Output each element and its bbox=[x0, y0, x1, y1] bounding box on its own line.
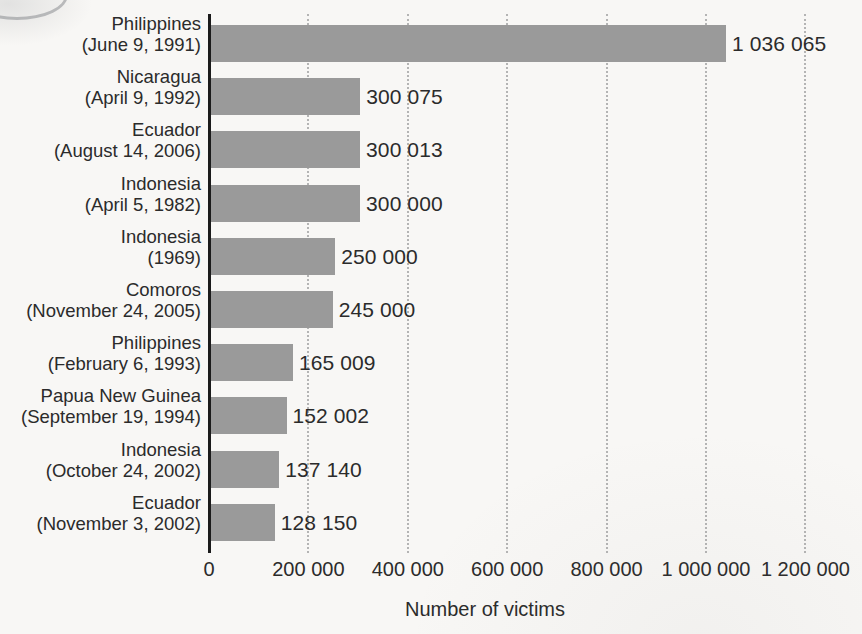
category-label: Papua New Guinea(September 19, 1994) bbox=[0, 385, 201, 427]
value-tick-label: 400 000 bbox=[372, 558, 444, 581]
bar-value-label: 128 150 bbox=[281, 504, 358, 541]
category-country: Indonesia bbox=[0, 439, 201, 460]
value-axis-title: Number of victims bbox=[0, 598, 862, 621]
bar[interactable] bbox=[211, 291, 333, 328]
category-date: (November 24, 2005) bbox=[0, 300, 201, 321]
bar[interactable] bbox=[211, 344, 293, 381]
category-date: (April 9, 1992) bbox=[0, 87, 201, 108]
category-country: Nicaragua bbox=[0, 66, 201, 87]
gridline bbox=[606, 14, 608, 553]
bar-value-label: 250 000 bbox=[341, 238, 418, 275]
bar[interactable] bbox=[211, 131, 360, 168]
bar[interactable] bbox=[211, 25, 726, 62]
category-date: (August 14, 2006) bbox=[0, 140, 201, 161]
category-label: Comoros(November 24, 2005) bbox=[0, 279, 201, 321]
value-tick-label: 600 000 bbox=[471, 558, 543, 581]
gridline bbox=[705, 14, 707, 553]
bar[interactable] bbox=[211, 78, 360, 115]
bar-value-label: 300 075 bbox=[366, 78, 443, 115]
bar[interactable] bbox=[211, 185, 360, 222]
category-label: Ecuador(November 3, 2002) bbox=[0, 492, 201, 534]
category-label: Ecuador(August 14, 2006) bbox=[0, 119, 201, 161]
value-tick-label: 200 000 bbox=[272, 558, 344, 581]
bar-value-label: 300 013 bbox=[366, 131, 443, 168]
bar[interactable] bbox=[211, 238, 335, 275]
category-country: Papua New Guinea bbox=[0, 385, 201, 406]
bar-value-label: 245 000 bbox=[339, 291, 416, 328]
category-date: (October 24, 2002) bbox=[0, 460, 201, 481]
category-date: (June 9, 1991) bbox=[0, 34, 201, 55]
category-label: Philippines(February 6, 1993) bbox=[0, 332, 201, 374]
category-country: Ecuador bbox=[0, 492, 201, 513]
bar[interactable] bbox=[211, 451, 279, 488]
category-label: Indonesia(April 5, 1982) bbox=[0, 173, 201, 215]
bar-value-label: 152 002 bbox=[293, 397, 370, 434]
category-country: Indonesia bbox=[0, 226, 201, 247]
category-axis: Philippines(June 9, 1991)Nicaragua(April… bbox=[0, 0, 205, 634]
bar-value-label: 1 036 065 bbox=[732, 25, 826, 62]
bar[interactable] bbox=[211, 397, 287, 434]
category-label: Indonesia(1969) bbox=[0, 226, 201, 268]
category-country: Indonesia bbox=[0, 173, 201, 194]
plot-area: 1 036 065300 075300 013300 000250 000245… bbox=[208, 14, 854, 553]
category-label: Indonesia(October 24, 2002) bbox=[0, 439, 201, 481]
gridline bbox=[506, 14, 508, 553]
chart-container: Philippines(June 9, 1991)Nicaragua(April… bbox=[0, 0, 862, 634]
category-label: Nicaragua(April 9, 1992) bbox=[0, 66, 201, 108]
category-date: (September 19, 1994) bbox=[0, 406, 201, 427]
bar-value-label: 165 009 bbox=[299, 344, 376, 381]
category-date: (April 5, 1982) bbox=[0, 194, 201, 215]
category-label: Philippines(June 9, 1991) bbox=[0, 13, 201, 55]
category-date: (February 6, 1993) bbox=[0, 353, 201, 374]
bar-value-label: 300 000 bbox=[366, 185, 443, 222]
gridline bbox=[804, 14, 806, 553]
value-tick-label: 800 000 bbox=[570, 558, 642, 581]
category-country: Philippines bbox=[0, 332, 201, 353]
category-country: Comoros bbox=[0, 279, 201, 300]
bar-value-label: 137 140 bbox=[285, 451, 362, 488]
category-date: (1969) bbox=[0, 247, 201, 268]
category-country: Philippines bbox=[0, 13, 201, 34]
value-tick-label: 1 200 000 bbox=[761, 558, 850, 581]
category-country: Ecuador bbox=[0, 119, 201, 140]
bar[interactable] bbox=[211, 504, 275, 541]
value-tick-label: 0 bbox=[203, 558, 214, 581]
value-tick-label: 1 000 000 bbox=[662, 558, 751, 581]
value-axis-title-text: Number of victims bbox=[297, 598, 565, 621]
category-date: (November 3, 2002) bbox=[0, 513, 201, 534]
